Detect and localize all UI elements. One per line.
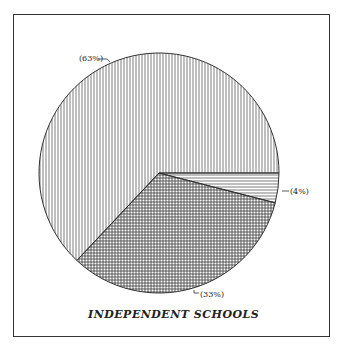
pie-chart: (63%) (4%) (33%) INDEPENDENT SCHOOLS <box>0 0 350 351</box>
label-33: (33%) <box>200 290 224 299</box>
pie-slices <box>39 53 279 293</box>
label-4: (4%) <box>290 187 309 196</box>
label-63: (63%) <box>79 54 103 63</box>
chart-title: INDEPENDENT SCHOOLS <box>87 308 259 321</box>
leader-line-33 <box>194 290 199 293</box>
